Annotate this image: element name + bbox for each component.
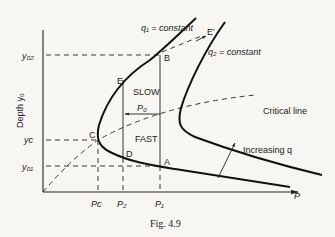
increasing-q-label: Increasing q [243, 145, 292, 155]
q1-curve [98, 18, 290, 187]
fast-region-label: FAST [135, 134, 158, 144]
figure-caption: Fig. 4.9 [150, 218, 181, 229]
critical-line-label: Critical line [263, 106, 307, 116]
q2-label: q₂ = constant [208, 47, 261, 57]
e-prime-arrow [196, 36, 206, 41]
p0-label: P₀ [137, 103, 147, 113]
point-e-prime: E' [207, 27, 215, 37]
p2-label: P₂ [117, 199, 127, 209]
q1-label: q₁ = constant [141, 23, 194, 33]
y01-label: y₀₁ [21, 162, 33, 172]
p1-label: P₁ [155, 199, 164, 209]
yc-label: yᴄ [23, 135, 34, 145]
pc-label: Pᴄ [91, 199, 102, 209]
point-b: B [164, 53, 170, 63]
slow-region-label: SLOW [133, 87, 160, 97]
x-axis-label: P [294, 191, 300, 201]
y-axis-label: Depth y₀ [15, 93, 25, 128]
specific-force-diagram: y₀₂ yᴄ y₀₁ Depth y₀ Pᴄ P₂ P₁ P q₁ = cons… [0, 0, 335, 237]
point-d: D [126, 149, 133, 159]
point-c: C [89, 130, 96, 140]
point-a: A [164, 157, 170, 167]
y02-label: y₀₂ [21, 51, 34, 61]
point-e: E [117, 76, 123, 86]
